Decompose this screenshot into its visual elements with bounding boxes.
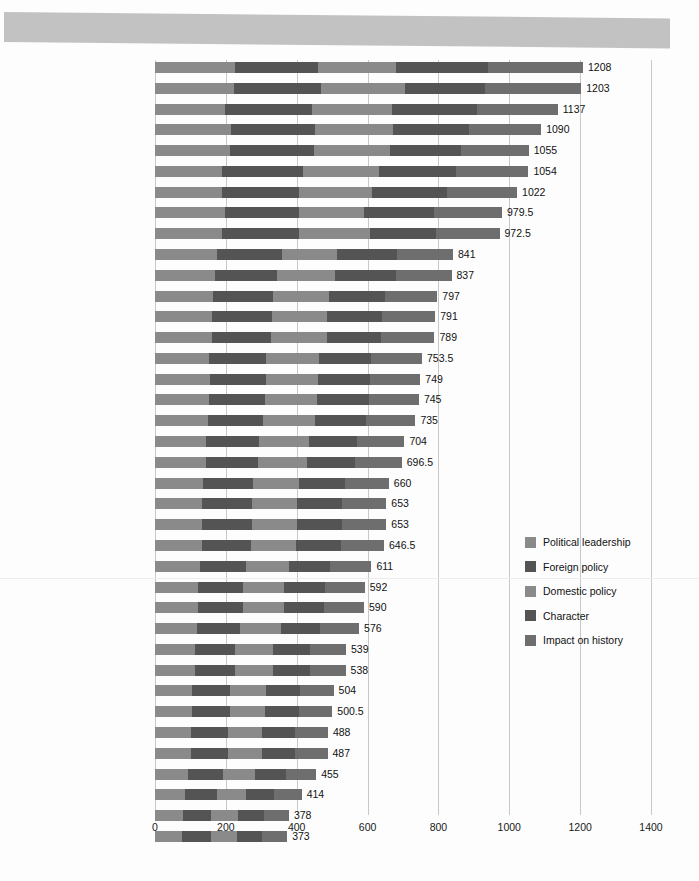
bar-segment-domestic-policy — [299, 207, 364, 218]
bar-segment-character — [309, 436, 357, 447]
bar-segment-political-leadership — [155, 727, 191, 738]
value-label: 837 — [457, 270, 475, 281]
bar-segment-character — [405, 83, 484, 94]
bar-segment-political-leadership — [155, 311, 212, 322]
stacked-bar — [155, 748, 328, 759]
bar-segment-character — [296, 540, 340, 551]
value-label: 979.5 — [507, 207, 533, 218]
stacked-bar — [155, 540, 384, 551]
bar-segment-political-leadership — [155, 602, 198, 613]
legend-label: Foreign policy — [543, 561, 608, 573]
stacked-bar — [155, 519, 386, 530]
chart-row: Franklin D. Roosevelt1203 — [155, 83, 651, 94]
stacked-bar — [155, 582, 365, 593]
bar-segment-political-leadership — [155, 394, 209, 405]
bar-segment-impact-on-history — [469, 124, 541, 135]
value-label: 1203 — [586, 83, 609, 94]
bar-segment-impact-on-history — [345, 478, 389, 489]
bar-segment-foreign-policy — [202, 540, 251, 551]
value-label: 753.5 — [427, 353, 453, 364]
bar-segment-foreign-policy — [197, 623, 240, 634]
chart-row: Dwight D. Eisenhower972.5 — [155, 228, 651, 239]
bar-segment-character — [307, 457, 355, 468]
bar-segment-impact-on-history — [461, 145, 529, 156]
bar-segment-character — [299, 478, 344, 489]
bar-segment-foreign-policy — [209, 394, 265, 405]
value-label: 646.5 — [389, 540, 415, 551]
bar-segment-character — [297, 519, 342, 530]
bar-segment-political-leadership — [155, 353, 209, 364]
stacked-bar — [155, 374, 420, 385]
value-label: 611 — [376, 561, 393, 572]
bar-segment-character — [327, 311, 382, 322]
stacked-bar — [155, 498, 386, 509]
bar-segment-political-leadership — [155, 187, 222, 198]
bar-segment-impact-on-history — [330, 561, 371, 572]
bar-segment-character — [370, 228, 437, 239]
value-label: 378 — [294, 810, 312, 821]
bar-segment-domestic-policy — [230, 685, 265, 696]
bar-segment-foreign-policy — [222, 187, 299, 198]
bar-segment-political-leadership — [155, 748, 191, 759]
bar-segment-foreign-policy — [195, 644, 236, 655]
bar-segment-impact-on-history — [397, 249, 453, 260]
bar-segment-foreign-policy — [195, 665, 235, 676]
bar-segment-character — [265, 706, 299, 717]
bar-segment-political-leadership — [155, 561, 200, 572]
bar-segment-foreign-policy — [191, 727, 228, 738]
legend-swatch-icon — [525, 610, 536, 621]
bar-segment-impact-on-history — [370, 374, 420, 385]
bar-segment-domestic-policy — [253, 478, 299, 489]
stacked-bar — [155, 478, 389, 489]
bar-segment-foreign-policy — [209, 353, 266, 364]
bar-segment-foreign-policy — [213, 291, 273, 302]
chart-row: John F. Kennedy735 — [155, 415, 651, 426]
chart-row: Chester A. Arthur487 — [155, 748, 651, 759]
bar-segment-foreign-policy — [212, 311, 271, 322]
bar-segment-domestic-policy — [228, 748, 262, 759]
chart-legend: Political leadershipForeign policyDomest… — [525, 530, 690, 653]
bar-segment-political-leadership — [155, 498, 202, 509]
stacked-bar — [155, 810, 289, 821]
bar-segment-domestic-policy — [318, 62, 397, 73]
chart-row: James Buchanan378 — [155, 810, 651, 821]
legend-label: Domestic policy — [543, 585, 617, 597]
bar-segment-character — [262, 727, 295, 738]
bar-segment-political-leadership — [155, 415, 208, 426]
legend-swatch-icon — [525, 537, 536, 548]
bar-segment-political-leadership — [155, 810, 183, 821]
stacked-bar — [155, 457, 402, 468]
bar-segment-character — [335, 270, 396, 281]
bar-segment-political-leadership — [155, 478, 203, 489]
value-label: 735 — [420, 415, 438, 426]
chart-row: Grover Cleveland745 — [155, 394, 651, 405]
stacked-bar — [155, 706, 332, 717]
legend-swatch-icon — [525, 586, 536, 597]
bar-segment-character — [315, 415, 366, 426]
bar-segment-political-leadership — [155, 332, 212, 343]
bar-segment-political-leadership — [155, 644, 195, 655]
chart-row: William McKinley789 — [155, 332, 651, 343]
chart-row: Andrew Jackson979.5 — [155, 207, 651, 218]
bar-segment-domestic-policy — [303, 166, 379, 177]
chart-row: Woodrow Wilson1022 — [155, 187, 651, 198]
bar-segment-domestic-policy — [273, 291, 329, 302]
chart-row: James K. Polk837 — [155, 270, 651, 281]
value-label: 749 — [425, 374, 443, 385]
bar-segment-character — [317, 394, 369, 405]
bar-segment-political-leadership — [155, 582, 198, 593]
legend-item: Political leadership — [525, 530, 690, 555]
bar-segment-character — [327, 332, 382, 343]
bar-segment-impact-on-history — [299, 706, 332, 717]
bar-segment-foreign-policy — [192, 685, 230, 696]
stacked-bar — [155, 685, 334, 696]
chart-row: Zachary Taylor500.5 — [155, 706, 651, 717]
bar-segment-impact-on-history — [342, 519, 386, 530]
value-label: 660 — [394, 478, 412, 489]
bar-segment-foreign-policy — [208, 415, 263, 426]
bar-segment-foreign-policy — [225, 104, 312, 115]
bar-segment-political-leadership — [155, 249, 217, 260]
bar-segment-domestic-policy — [258, 457, 307, 468]
bar-segment-foreign-policy — [206, 436, 259, 447]
value-label: 696.5 — [407, 457, 433, 468]
